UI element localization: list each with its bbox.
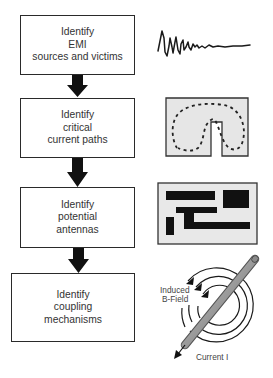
label-line: B-Field [160, 295, 190, 304]
noise-waveform-icon [158, 31, 250, 56]
current-label: Current I [196, 353, 228, 362]
flow-arrow-down-icon [67, 158, 88, 187]
flow-arrow-down-icon [68, 248, 89, 273]
diagram-graphics [0, 0, 273, 378]
flow-arrow-down-icon [67, 75, 88, 97]
u-shaped-current-path-icon [166, 98, 248, 156]
wire-magnetic-field-icon [174, 254, 260, 359]
pcb-trace-antenna-icon [158, 183, 257, 244]
induced-field-label: Induced B-Field [160, 286, 190, 304]
